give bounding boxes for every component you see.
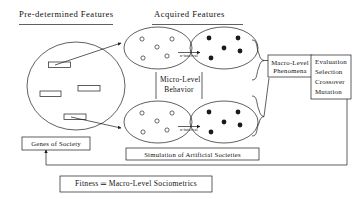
macro-level-label-line1: Macro-Level [268, 59, 312, 67]
n-interval-label-top: n-interval [180, 54, 198, 59]
gene-bar [78, 86, 100, 92]
agent-marker-filled [238, 123, 243, 128]
gene-pool-ellipse [27, 42, 125, 130]
agent-marker-hollow [141, 130, 145, 134]
header-predetermined-features: Pre-determined Features [19, 10, 114, 20]
micro-initial-markers-bottom [140, 111, 174, 134]
genes-of-society-label: Genes of Society [22, 140, 90, 148]
ga-operator-evaluation: Evaluation [315, 58, 347, 66]
micro-evolved-markers-top [207, 36, 243, 61]
ga-operator-mutation: Mutation [315, 88, 342, 96]
brace-lower-to-macro-connector [264, 78, 269, 117]
micro-level-behavior-caption-line1: Micro-Level [160, 76, 198, 84]
ga-operator-crossover: Crossover [315, 78, 345, 86]
agent-marker-filled [207, 36, 212, 41]
agent-marker-filled [209, 130, 214, 135]
agent-marker-hollow [170, 111, 174, 115]
micro-initial-ellipse-bottom [124, 101, 192, 143]
micro-evolved-markers-bottom [207, 110, 243, 135]
agent-marker-hollow [170, 37, 174, 41]
agent-marker-hollow [155, 45, 159, 49]
agent-marker-hollow [165, 128, 169, 132]
agent-marker-filled [236, 110, 241, 115]
agent-marker-filled [238, 49, 243, 54]
agent-marker-hollow [165, 54, 169, 58]
gene-bar [40, 91, 61, 97]
figure-canvas: Pre-determined Features Acquired Feature… [0, 0, 353, 199]
micro-initial-ellipse-top [124, 27, 192, 69]
simulation-label: Simulation of Artificial Societies [126, 151, 259, 159]
agent-marker-hollow [140, 111, 144, 115]
micro-level-behavior-caption-line2: Behavior [160, 86, 198, 94]
agent-marker-filled [209, 56, 214, 61]
arrow-genepool-to-top-population [55, 43, 121, 65]
header-acquired-features: Acquired Features [154, 10, 225, 20]
agent-marker-filled [222, 120, 227, 125]
gene-bar [64, 114, 86, 120]
agent-marker-hollow [140, 37, 144, 41]
agent-marker-hollow [155, 119, 159, 123]
agent-marker-filled [222, 46, 227, 51]
diagram-graphics [0, 0, 353, 199]
ga-operator-selection: Selection [315, 68, 342, 76]
grouping-brace-lower [252, 96, 264, 136]
agent-marker-filled [207, 110, 212, 115]
agent-marker-filled [236, 36, 241, 41]
macro-level-label-line2: Phenomena [268, 67, 312, 75]
fitness-label: Fitness ═ Macro-Level Sociometrics [60, 180, 212, 189]
micro-initial-markers-top [140, 37, 174, 60]
agent-marker-hollow [141, 56, 145, 60]
n-interval-label-bottom: n-interval [180, 128, 198, 133]
gene-bar [49, 62, 71, 68]
